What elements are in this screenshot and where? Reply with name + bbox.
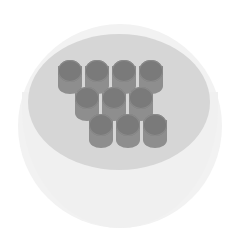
cylinder — [116, 114, 140, 148]
cylinder — [89, 114, 113, 148]
cylinder — [143, 114, 167, 148]
cylinder-top — [85, 60, 109, 82]
cylinder-top — [139, 60, 163, 82]
cylinder-top — [129, 87, 153, 109]
cylinder-top — [75, 87, 99, 109]
cylinder-top — [102, 87, 126, 109]
cup-illustration — [0, 0, 233, 249]
cylinder-top — [116, 114, 140, 136]
cylinder-top — [89, 114, 113, 136]
cylinder-top — [143, 114, 167, 136]
cylinder-top — [58, 60, 82, 82]
cylinder-top — [112, 60, 136, 82]
